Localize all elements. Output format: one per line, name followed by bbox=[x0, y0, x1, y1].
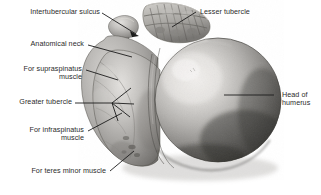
label-greater-tubercle: Greater tubercle bbox=[4, 98, 72, 107]
label-anatomical-neck: Anatomical neck bbox=[4, 40, 84, 49]
figure-caption bbox=[8, 185, 313, 195]
label-supraspinatus-line2: muscle bbox=[2, 73, 82, 82]
label-intertubercular-sulcus: Intertubercular sulcus bbox=[4, 8, 100, 17]
label-teres-minor: For teres minor muscle bbox=[2, 167, 106, 176]
label-lesser-tubercle: Lesser tubercle bbox=[200, 8, 290, 17]
label-infraspinatus-line2: muscle bbox=[2, 134, 84, 143]
bone-illustration bbox=[78, 0, 288, 181]
label-head-of-humerus-line2: humerus bbox=[282, 99, 321, 108]
